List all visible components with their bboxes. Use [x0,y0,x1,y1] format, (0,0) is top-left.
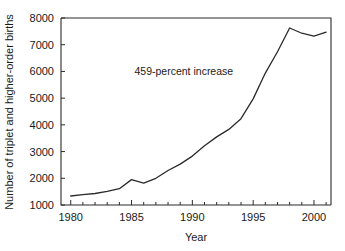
y-tick-label: 2000 [30,172,54,184]
y-tick-label: 7000 [30,39,54,51]
chart-annotation-label: 459-percent increase [135,65,234,77]
y-axis-title: Number of triplet and higher-order birth… [3,14,15,210]
x-tick-label: 1990 [180,211,204,223]
line-chart: 19801985199019952000 1000200030004000500… [0,0,345,251]
chart-annotations: 459-percent increase [135,65,234,77]
x-tick-label: 1995 [241,211,265,223]
x-axis-title: Year [185,231,208,243]
y-tick-label: 4000 [30,119,54,131]
chart-figure: 19801985199019952000 1000200030004000500… [0,0,345,251]
y-tick-label: 1000 [30,199,54,211]
x-tick-label: 1980 [58,211,82,223]
y-tick-label: 3000 [30,146,54,158]
y-tick-label: 8000 [30,12,54,24]
x-tick-label: 2000 [302,211,326,223]
y-tick-label: 5000 [30,92,54,104]
y-tick-label: 6000 [30,65,54,77]
x-tick-label: 1985 [119,211,143,223]
